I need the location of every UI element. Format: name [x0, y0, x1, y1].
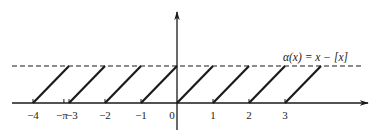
- fractional-part-diagram: −4−π−3−2−10123 α(x) = x − [x]: [0, 0, 380, 134]
- sawtooth-segment: [105, 66, 141, 103]
- x-tick-label: 1: [210, 110, 216, 121]
- x-tick-label: −1: [135, 110, 147, 121]
- sawtooth-segment: [177, 66, 213, 103]
- x-tick-label: 0: [169, 110, 175, 121]
- x-tick-label: −4: [27, 110, 39, 121]
- sawtooth-segment: [285, 66, 321, 103]
- sawtooth-segment: [69, 66, 105, 103]
- sawtooth-segment: [249, 66, 285, 103]
- sawtooth-segment: [213, 66, 249, 103]
- sawtooth-segment: [141, 66, 177, 103]
- sawtooth-segment: [33, 66, 69, 103]
- function-label: α(x) = x − [x]: [283, 51, 348, 63]
- x-tick-label: 3: [282, 110, 288, 121]
- x-tick-label: 2: [246, 110, 252, 121]
- x-tick-label: −3: [66, 110, 78, 121]
- x-tick-label: −2: [99, 110, 111, 121]
